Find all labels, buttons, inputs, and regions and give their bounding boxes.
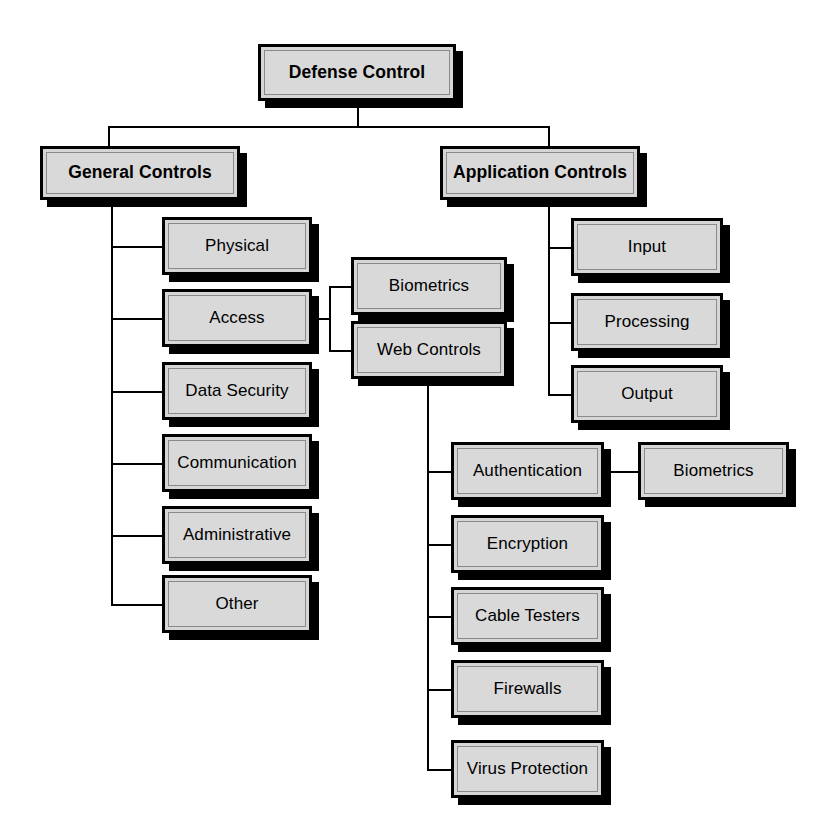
node-label: Web Controls xyxy=(377,341,481,360)
node-biometrics-access[interactable]: Biometrics xyxy=(351,257,507,315)
connector-access-fork xyxy=(329,286,331,352)
connector-access-child-biometrics xyxy=(329,286,351,288)
node-label: Firewalls xyxy=(494,680,562,699)
node-authentication[interactable]: Authentication xyxy=(451,442,604,500)
node-firewalls[interactable]: Firewalls xyxy=(451,660,604,718)
node-data-security[interactable]: Data Security xyxy=(162,362,312,420)
node-physical[interactable]: Physical xyxy=(162,217,312,275)
node-application-controls[interactable]: Application Controls xyxy=(440,146,640,200)
connector-general-trunk xyxy=(111,200,113,605)
node-general-controls[interactable]: General Controls xyxy=(40,146,240,200)
node-label: Data Security xyxy=(185,382,288,401)
node-label: Processing xyxy=(604,313,689,332)
node-input[interactable]: Input xyxy=(571,218,723,276)
connector-access-child-web-controls xyxy=(329,350,351,352)
node-defense-control[interactable]: Defense Control xyxy=(258,44,456,101)
node-label: Cable Testers xyxy=(475,607,580,626)
node-web-controls[interactable]: Web Controls xyxy=(351,321,507,379)
connector-root-bus xyxy=(108,126,550,128)
node-label: Virus Protection xyxy=(467,760,588,779)
connector-web-child-2 xyxy=(427,544,451,546)
connector-web-child-3 xyxy=(427,616,451,618)
connector-root-stem xyxy=(357,101,359,127)
connector-web-controls-trunk xyxy=(427,385,429,771)
connector-application-child-1 xyxy=(548,247,571,249)
node-communication[interactable]: Communication xyxy=(162,434,312,492)
node-label: Biometrics xyxy=(673,462,753,481)
connector-application-trunk xyxy=(548,200,550,395)
node-label: Output xyxy=(621,385,673,404)
node-biometrics-authentication[interactable]: Biometrics xyxy=(638,442,789,500)
node-label: Defense Control xyxy=(289,63,426,82)
node-label: Physical xyxy=(205,237,269,256)
node-encryption[interactable]: Encryption xyxy=(451,515,604,573)
node-label: Authentication xyxy=(473,462,582,481)
diagram-canvas: Defense Control General Controls Applica… xyxy=(0,0,828,839)
node-label: Communication xyxy=(177,454,296,473)
connector-general-child-4 xyxy=(111,463,162,465)
connector-general-child-6 xyxy=(111,604,162,606)
node-label: Other xyxy=(215,595,258,614)
node-cable-testers[interactable]: Cable Testers xyxy=(451,587,604,645)
node-label: Input xyxy=(628,238,666,257)
connector-application-child-3 xyxy=(548,394,571,396)
node-access[interactable]: Access xyxy=(162,289,312,347)
connector-general-child-5 xyxy=(111,535,162,537)
node-output[interactable]: Output xyxy=(571,365,723,423)
connector-application-child-2 xyxy=(548,322,571,324)
connector-authentication-to-biometrics xyxy=(604,471,638,473)
connector-to-general-controls xyxy=(108,126,110,148)
connector-web-child-5 xyxy=(427,769,451,771)
node-other[interactable]: Other xyxy=(162,575,312,633)
connector-web-child-4 xyxy=(427,689,451,691)
connector-general-child-3 xyxy=(111,391,162,393)
connector-general-child-1 xyxy=(111,246,162,248)
node-label: Biometrics xyxy=(389,277,469,296)
connector-web-child-1 xyxy=(427,471,451,473)
node-label: Application Controls xyxy=(453,163,627,182)
node-label: Encryption xyxy=(487,535,568,554)
node-virus-protection[interactable]: Virus Protection xyxy=(451,740,604,798)
node-label: Access xyxy=(209,309,264,328)
connector-access-out xyxy=(311,318,331,320)
connector-to-application-controls xyxy=(548,126,550,148)
node-administrative[interactable]: Administrative xyxy=(162,506,312,564)
node-label: Administrative xyxy=(183,526,291,545)
connector-general-child-2 xyxy=(111,318,162,320)
node-label: General Controls xyxy=(68,163,212,182)
node-processing[interactable]: Processing xyxy=(571,293,723,351)
